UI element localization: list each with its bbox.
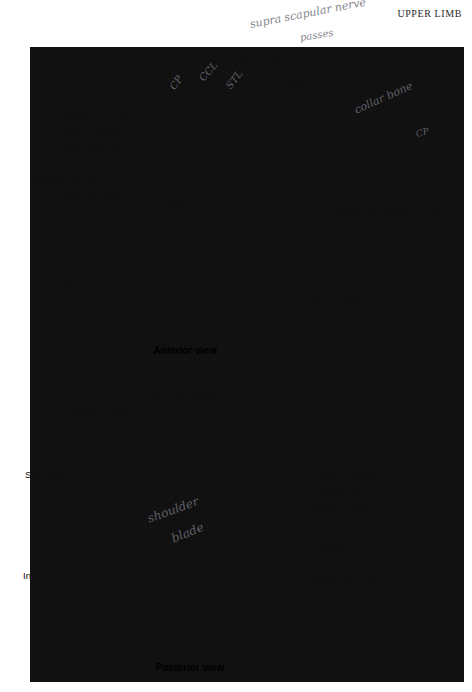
label-posterior-superior-angle: Superior angle [68, 404, 130, 416]
label-posterior-humerus: Humerus [306, 540, 345, 552]
label-posterior-infraglenoid-tubercle: Infraglenoid tubercle [306, 522, 392, 534]
label-posterior-infraspinous-fossa: Infraspinous fossa [23, 570, 100, 582]
label-anterior-neck-of-scapula: Neck of [165, 199, 197, 211]
label-posterior-inferior-angle: Inferior angle [160, 641, 215, 653]
label-posterior-greater-tubercle: Greater tubercle [312, 468, 381, 480]
caption-anterior-view: Anterior view [135, 345, 235, 356]
label-posterior-spine-of-scapula: Spine of scapula [146, 391, 216, 403]
label-posterior-deltoid-tuberosity: Deltoid tuberosity [306, 573, 379, 585]
label-posterior-supraspinous-fossa-2: fossa [66, 481, 89, 493]
label-anterior-clavicle: Clavicle [281, 76, 314, 88]
label-anterior-intertubercular-sulcus: Intertubercular sulcus [32, 162, 123, 174]
anterior-view-illustration [130, 60, 340, 320]
running-head: UPPER LIMB [397, 8, 462, 19]
label-anterior-scapular-notch: Scapular notch [226, 52, 289, 64]
label-posterior-head: Head [297, 450, 320, 462]
label-anterior-acromion: Acromion [129, 64, 169, 76]
label-anterior-lesser-tubercle: Lesser tubercle [56, 143, 121, 155]
textbook-page: UPPER LIMB [0, 0, 472, 692]
label-anterior-neck-of-scapula-2: scapula [163, 211, 196, 223]
caption-posterior-view: Posterior view [135, 662, 245, 673]
label-anterior-lateral-border: Lateral (axillary) border [112, 322, 210, 334]
label-posterior-surgical-neck: Surgical neck [312, 503, 369, 515]
posterior-view-illustration [95, 408, 335, 646]
handwritten-note-1: passes [299, 27, 334, 43]
handwritten-note-0: supra scapular nerve [249, 0, 367, 31]
label-anterior-inferior-angle: Inferior angle [306, 292, 361, 304]
label-anterior-humerus: Humerus [92, 208, 131, 220]
label-posterior-acromion: Acromion [297, 432, 337, 444]
label-anterior-medial-border: Medial (vertebral) border [337, 205, 441, 217]
label-anterior-subscapular-fossa: Subscapular fossa [337, 176, 415, 188]
label-posterior-anatomical-neck: Anatomical neck [312, 486, 382, 498]
label-posterior-supraspinous-fossa: Supraspinous [25, 469, 83, 481]
label-anterior-coracoid-process: Coracoid process [56, 111, 130, 123]
label-anterior-surgical-neck: Surgical neck [63, 191, 120, 203]
label-anterior-bicipital-groove: (bicipital groove) [32, 174, 102, 186]
label-anterior-greater-tubercle: Greater tubercle [56, 127, 125, 139]
label-posterior-acromioclavicular: Acromioclavicular joint [253, 392, 348, 404]
label-anterior-deltoid-tuberosity: Deltoid tuberosity [52, 280, 125, 292]
